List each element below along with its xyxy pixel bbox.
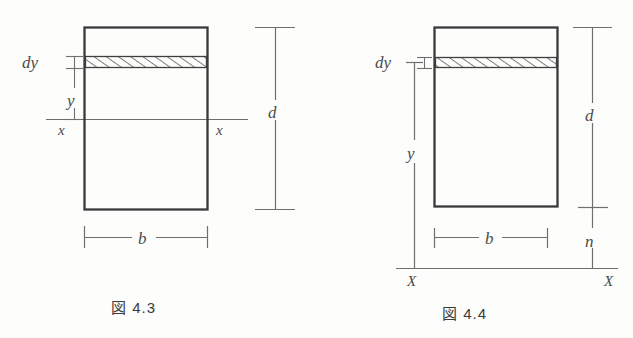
dimension-label-d: d (585, 106, 594, 125)
strip-hatch-fill (435, 57, 557, 68)
axis-label-X-left: X (406, 273, 417, 289)
dimension-label-y: y (405, 144, 415, 163)
elemental-strip (85, 56, 207, 68)
figure-caption-4-3: 図 4.3 (111, 299, 156, 316)
strip-hatch-fill (85, 56, 207, 68)
axis-label-x-left: x (57, 122, 65, 138)
elemental-strip (435, 57, 557, 68)
dimension-y: y (405, 62, 423, 269)
dimension-d: d (255, 28, 295, 210)
technical-drawing-canvas: dy y x x d (0, 0, 633, 338)
dimension-b: b (85, 226, 208, 248)
dimension-label-n: n (585, 232, 594, 251)
diagram-page: dy y x x d (0, 0, 633, 338)
dimension-label-dy: dy (22, 53, 39, 72)
cross-section-rectangle (85, 28, 208, 210)
figure-4-3-group: dy y x x d (22, 28, 295, 317)
dimension-y: y (65, 68, 83, 120)
figure-caption-4-4: 図 4.4 (442, 305, 487, 322)
dimension-label-y: y (65, 91, 75, 110)
dimension-label-b: b (138, 229, 147, 248)
dimension-label-dy: dy (375, 53, 392, 72)
axis-label-X-right: X (603, 273, 614, 289)
dimension-dy: dy (22, 53, 83, 72)
dimension-d: d (573, 28, 612, 208)
cross-section-rectangle (435, 28, 558, 207)
dimension-label-b: b (485, 229, 494, 248)
dimension-label-d: d (268, 103, 277, 122)
dimension-n: n (585, 208, 594, 269)
figure-4-4-group: dy y b d (375, 28, 618, 323)
dimension-b: b (435, 228, 548, 248)
dimension-dy: dy (375, 53, 432, 72)
axis-label-x-right: x (215, 122, 223, 138)
